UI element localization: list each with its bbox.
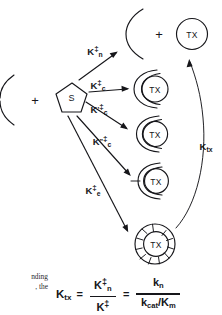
equation-frac1-denominator: K‡ [93, 298, 112, 315]
complex-2-tx-label: TX [149, 130, 160, 139]
frac1-num-sub: n [107, 284, 112, 293]
arrow-ke [68, 116, 128, 232]
equation-frac2-bar [136, 293, 180, 294]
equation-frac2-denominator: kcat/Km [138, 296, 179, 312]
complex-3-tx-label: TX [150, 177, 161, 186]
complex-4-tx-label: TX [150, 240, 161, 249]
rate-label-ke: K‡e [85, 184, 100, 197]
frac1-num-base: K [94, 279, 102, 291]
rate-label-kc-prime: K'‡c [91, 103, 108, 116]
rate-kc-base: K [90, 80, 97, 91]
plus-sign-reactants: + [31, 94, 39, 107]
rate-label-kc: K‡c [90, 79, 105, 92]
caption-fragment-line-2: , the [4, 282, 48, 292]
caption-fragment: nding , the [4, 272, 48, 291]
rate-kc2-sub: c [108, 141, 112, 148]
equation-frac1-bar [90, 296, 116, 297]
ktx-sub: tx [206, 146, 212, 153]
figure-root: + S + TX TX TX TX TX K‡n K‡c K'‡c K"‡c K… [0, 0, 222, 315]
substrate-label-s: S [68, 94, 74, 103]
rate-kc1-sub: c [104, 109, 108, 116]
free-enzyme-left-shape [0, 75, 14, 125]
rate-ke-sub: e [97, 190, 101, 197]
equation-lhs-sub: tx [64, 293, 71, 302]
plus-sign-products: + [155, 28, 163, 41]
frac2-den-sub: cat [147, 301, 158, 310]
rate-kc1-base: K [91, 104, 98, 115]
equation: Ktx = K‡n K‡ = kn kcat/Km [56, 276, 182, 315]
complex-1-tx-label: TX [149, 85, 160, 94]
scheme-svg [0, 0, 222, 315]
ktx-base: K [200, 141, 207, 152]
frac2-den-rest-sub: m [169, 301, 176, 310]
rate-label-ktx: Ktx [200, 142, 213, 154]
frac1-den-sup: ‡ [104, 299, 109, 309]
rate-kc-sub: c [102, 85, 106, 92]
rate-kc2-base: K [93, 136, 100, 147]
rate-label-kc-dblprime: K"‡c [93, 135, 112, 148]
rate-ke-base: K [85, 185, 92, 196]
product-enzyme-shape [126, 9, 143, 59]
rate-kn-base: K [87, 46, 94, 57]
caption-fragment-line-1: nding [4, 272, 48, 282]
frac2-den-rest: /K [158, 296, 169, 308]
rate-label-kn: K‡n [87, 45, 102, 58]
frac2-num-sub: n [159, 281, 164, 290]
equation-equals-2: = [123, 288, 129, 300]
equation-fraction-1: K‡n K‡ [90, 276, 116, 315]
equation-lhs: Ktx [56, 288, 71, 302]
equation-equals-1: = [76, 288, 82, 300]
product-tx-label: TX [186, 30, 197, 39]
equation-frac2-numerator: kn [150, 276, 167, 292]
equation-fraction-2: kn kcat/Km [136, 276, 180, 312]
equation-frac1-numerator: K‡n [91, 276, 115, 295]
rate-kn-sub: n [99, 51, 103, 58]
